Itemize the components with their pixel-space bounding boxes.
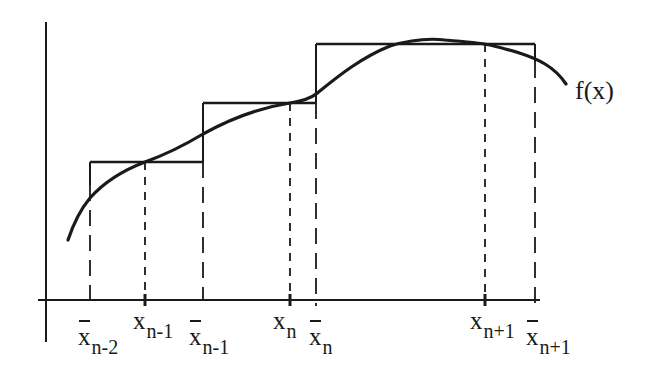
label-xbar-n-2: xn-2 <box>78 324 118 349</box>
function-label: f(x) <box>575 78 614 104</box>
label-x-n-1: xn-1 <box>133 308 173 333</box>
label-x-n+1: xn+1 <box>470 308 515 333</box>
label-xbar-n-1: xn-1 <box>189 324 229 349</box>
label-xbar-n+1: xn+1 <box>526 324 571 349</box>
label-x-n: xn <box>273 308 297 333</box>
step-approximation-diagram <box>0 0 652 376</box>
label-xbar-n: xn <box>309 324 333 349</box>
